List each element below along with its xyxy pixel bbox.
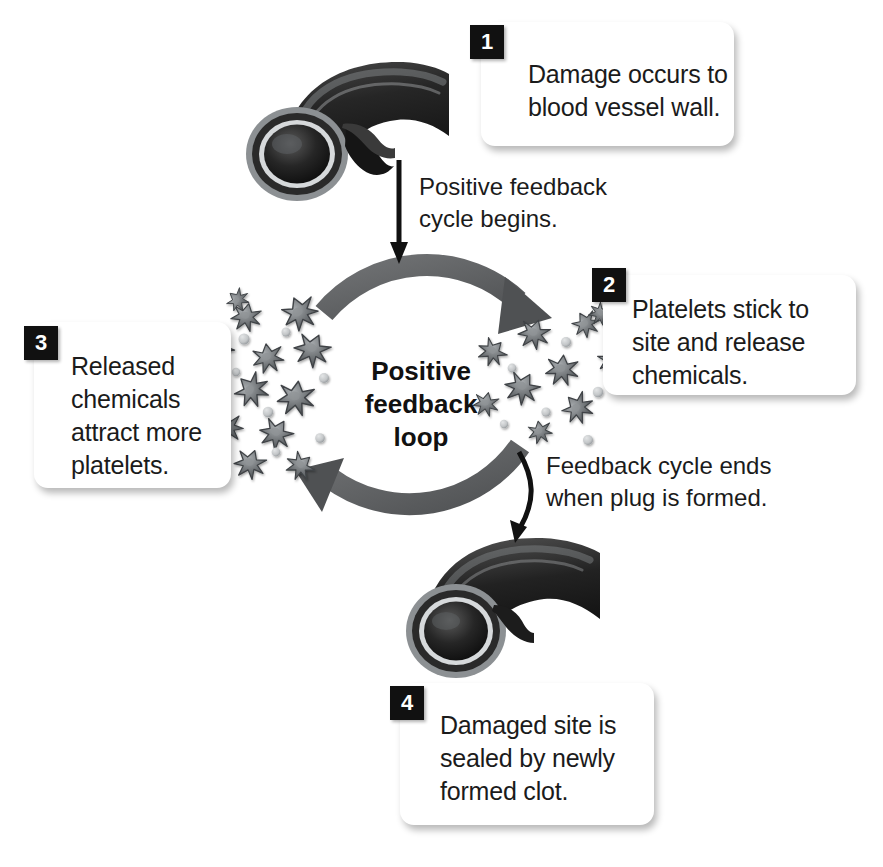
connector-label-cycle-begins: Positive feedback cycle begins. bbox=[419, 171, 649, 235]
step-text-3: Released chemicals attract more platelet… bbox=[71, 350, 231, 482]
step-badge-4: 4 bbox=[390, 686, 424, 720]
feedback-loop-center-label: Positive feedback loop bbox=[351, 355, 491, 454]
loop-arrow-clockwise bbox=[324, 265, 552, 334]
sealed-blood-vessel-illustration bbox=[406, 538, 600, 678]
diagram-canvas: 1 Damage occurs to blood vessel wall. 2 … bbox=[0, 0, 883, 867]
step-badge-3: 3 bbox=[24, 326, 58, 360]
step-badge-2: 2 bbox=[592, 268, 626, 302]
arrow-cycle-begins bbox=[390, 160, 408, 264]
step-text-4: Damaged site is sealed by newly formed c… bbox=[440, 709, 655, 808]
connector-label-cycle-ends: Feedback cycle ends when plug is formed. bbox=[546, 450, 826, 514]
step-text-1: Damage occurs to blood vessel wall. bbox=[528, 58, 738, 124]
step-badge-1: 1 bbox=[470, 25, 504, 59]
loop-arrow-counterclockwise bbox=[295, 446, 520, 512]
step-text-2: Platelets stick to site and release chem… bbox=[632, 293, 847, 392]
